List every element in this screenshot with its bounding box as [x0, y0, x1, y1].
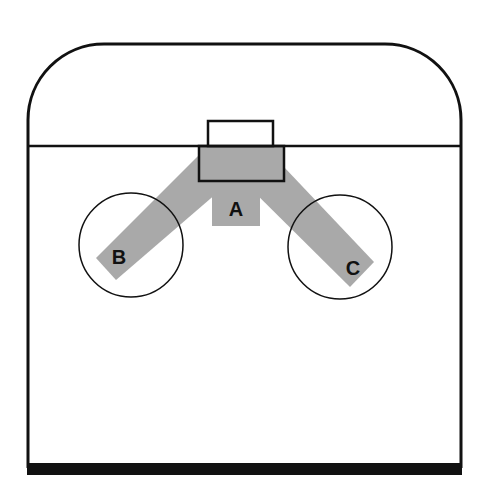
zone-a-label: A [229, 198, 243, 220]
top-box [208, 121, 273, 146]
zone-c-label: C [346, 257, 360, 279]
outer-boundary [28, 44, 461, 468]
zone-b-label: B [112, 246, 126, 268]
floor-plan-diagram: A B C [0, 0, 489, 499]
path-center [200, 147, 283, 180]
bottom-baseline [27, 463, 462, 475]
